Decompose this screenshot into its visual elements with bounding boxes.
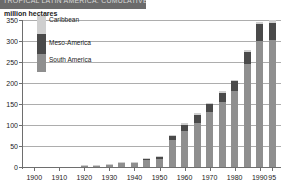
bar-segment-south-america	[181, 131, 188, 167]
y-axis-tick-label: 350	[0, 17, 18, 24]
x-axis-tick	[109, 168, 110, 171]
y-axis-tick-label: 50	[0, 143, 18, 150]
legend-swatch-south-america	[37, 54, 46, 72]
bar	[81, 165, 88, 167]
x-axis-tick-label: 1960	[177, 174, 193, 181]
bar-segment-south-america	[206, 112, 213, 167]
bar-segment-meso-america	[256, 24, 263, 41]
bar-segment-meso-america	[206, 104, 213, 112]
bar-segment-meso-america	[194, 115, 201, 123]
gridline	[23, 104, 281, 105]
x-axis-line	[22, 167, 281, 168]
bar-segment-south-america	[106, 165, 113, 167]
legend-swatch-meso-america	[37, 34, 46, 54]
bar	[269, 20, 276, 167]
bar-segment-meso-america	[181, 125, 188, 132]
x-axis-tick-label: 1990	[252, 174, 268, 181]
x-axis-tick	[160, 168, 161, 171]
x-axis-tick	[235, 168, 236, 171]
legend-swatch-caribbean	[37, 16, 46, 34]
legend-label-caribbean: Caribbean	[49, 16, 79, 23]
gridline	[23, 83, 281, 84]
bar-segment-south-america	[118, 163, 125, 167]
y-axis-tick-label: 100	[0, 122, 18, 129]
bar-segment-meso-america	[231, 81, 238, 91]
y-axis-tick-label: 200	[0, 80, 18, 87]
bar	[206, 103, 213, 167]
legend-label-south-america: South America	[49, 56, 91, 63]
bar-segment-south-america	[169, 140, 176, 167]
x-axis-tick	[210, 168, 211, 171]
y-axis-tick-label: 300	[0, 38, 18, 45]
y-axis-tick	[19, 62, 23, 63]
bar	[93, 165, 100, 167]
bar-segment-south-america	[131, 163, 138, 167]
x-axis-tick-label: 1910	[52, 174, 68, 181]
bar-segment-meso-america	[269, 23, 276, 41]
bar	[156, 156, 163, 167]
bar	[169, 135, 176, 167]
bar-segment-south-america	[244, 64, 251, 167]
y-axis-tick	[19, 83, 23, 84]
chart-title-bar: TROPICAL LATIN AMERICA: CUMULATIVE DEFOR…	[0, 0, 146, 9]
bar-segment-south-america	[93, 166, 100, 167]
x-axis-tick-label: 1940	[127, 174, 143, 181]
bar	[219, 91, 226, 167]
bar	[131, 162, 138, 167]
x-axis-tick-label: 1970	[202, 174, 218, 181]
gridline	[23, 146, 281, 147]
y-axis-tick	[19, 125, 23, 126]
y-axis-tick-label: 0	[0, 164, 18, 171]
y-axis-tick	[19, 104, 23, 105]
x-axis-tick	[185, 168, 186, 171]
x-axis-tick-label: 1920	[77, 174, 93, 181]
bar-segment-meso-america	[244, 52, 251, 64]
x-axis-tick-label: 1950	[152, 174, 168, 181]
bar-segment-south-america	[269, 40, 276, 167]
y-axis-tick	[19, 146, 23, 147]
bar	[106, 164, 113, 167]
chart-title-text: TROPICAL LATIN AMERICA: CUMULATIVE DEFOR…	[3, 0, 146, 4]
y-axis-tick	[19, 20, 23, 21]
x-axis-tick-label: 95	[268, 174, 276, 181]
x-axis-tick	[84, 168, 85, 171]
bar-segment-south-america	[143, 160, 150, 167]
x-axis-tick	[34, 168, 35, 171]
y-axis-tick-label: 150	[0, 101, 18, 108]
legend-swatch-bar	[37, 16, 46, 72]
bar-segment-south-america	[194, 123, 201, 167]
bar	[244, 50, 251, 167]
bar-segment-south-america	[81, 166, 88, 167]
x-axis-tick-label: 1930	[102, 174, 118, 181]
bar-segment-south-america	[231, 91, 238, 167]
x-axis-tick	[134, 168, 135, 171]
bar	[143, 158, 150, 167]
x-axis-tick	[59, 168, 60, 171]
y-axis-tick-label: 250	[0, 59, 18, 66]
y-axis-tick	[19, 41, 23, 42]
legend-label-meso-america: Meso-America	[49, 39, 91, 46]
bar-segment-south-america	[156, 159, 163, 167]
y-axis-tick	[19, 167, 23, 168]
bar	[256, 22, 263, 167]
x-axis-tick-label: 1980	[227, 174, 243, 181]
x-axis-tick	[260, 168, 261, 171]
bar-segment-south-america	[219, 102, 226, 167]
bar-segment-meso-america	[219, 93, 226, 102]
bar	[231, 80, 238, 167]
x-axis-tick-label: 1900	[26, 174, 42, 181]
gridline	[23, 125, 281, 126]
bar	[118, 162, 125, 167]
bar-segment-south-america	[256, 41, 263, 167]
bar	[181, 123, 188, 167]
bar	[194, 113, 201, 167]
x-axis-tick	[272, 168, 273, 171]
